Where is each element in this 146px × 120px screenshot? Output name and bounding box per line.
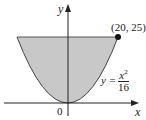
- y-axis-arrow-icon: [65, 4, 71, 12]
- y-axis-label: y: [58, 3, 63, 15]
- equation-fraction: x2 16: [118, 69, 129, 93]
- equation-lhs: y =: [101, 75, 116, 86]
- fraction-denominator: 16: [118, 82, 129, 93]
- origin-label: 0: [57, 106, 63, 117]
- point-label: (20, 25): [111, 22, 146, 33]
- point-marker: [115, 34, 121, 40]
- diagram-canvas: [0, 0, 146, 120]
- x-axis-label: x: [135, 106, 140, 118]
- fraction-numerator: x2: [118, 69, 128, 82]
- curve-equation: y = x2 16: [101, 69, 129, 93]
